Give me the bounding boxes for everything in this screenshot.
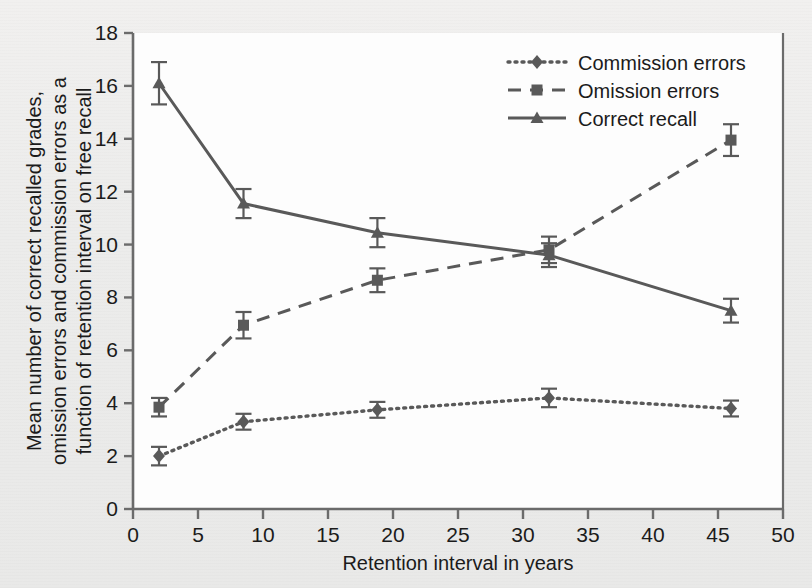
- legend-label: Commission errors: [578, 52, 746, 74]
- y-axis-ticks: [124, 33, 133, 509]
- y-axis-title-line-2: omission errors and commission errors as…: [48, 76, 70, 465]
- y-tick-label: 18: [95, 21, 118, 44]
- x-tick-label: 0: [127, 523, 139, 546]
- y-tick-label: 4: [106, 391, 118, 414]
- marker-square: [372, 275, 383, 286]
- y-tick-label: 16: [95, 74, 118, 97]
- x-tick-label: 30: [511, 523, 534, 546]
- y-tick-label: 2: [106, 444, 118, 467]
- marker-square: [532, 85, 543, 96]
- figure-container: 024681012141618 05101520253035404550 Com…: [0, 0, 812, 588]
- x-tick-label: 10: [251, 523, 274, 546]
- x-tick-label: 5: [192, 523, 204, 546]
- x-tick-label: 50: [771, 523, 794, 546]
- legend-label: Correct recall: [578, 108, 697, 130]
- y-tick-label: 10: [95, 233, 118, 256]
- x-tick-label: 40: [641, 523, 664, 546]
- y-tick-label: 12: [95, 180, 118, 203]
- legend-label: Omission errors: [578, 80, 719, 102]
- y-tick-label: 0: [106, 497, 118, 520]
- y-axis-title: Mean number of correct recalled grades, …: [23, 76, 95, 465]
- y-axis-title-line-3: function of retention interval on free r…: [73, 88, 95, 455]
- x-axis-title: Retention interval in years: [342, 552, 573, 574]
- y-tick-label: 6: [106, 338, 118, 361]
- y-axis-title-line-1: Mean number of correct recalled grades,: [23, 91, 45, 451]
- x-tick-label: 45: [706, 523, 729, 546]
- x-tick-label: 20: [381, 523, 404, 546]
- x-tick-label: 35: [576, 523, 599, 546]
- marker-square: [726, 135, 737, 146]
- y-axis-tick-labels: 024681012141618: [95, 21, 119, 520]
- line-chart: 024681012141618 05101520253035404550 Com…: [0, 0, 812, 588]
- y-tick-label: 8: [106, 285, 118, 308]
- x-axis-ticks: [133, 509, 783, 519]
- x-axis-tick-labels: 05101520253035404550: [127, 523, 795, 546]
- y-tick-label: 14: [95, 127, 119, 150]
- x-tick-label: 25: [446, 523, 469, 546]
- marker-square: [238, 320, 249, 331]
- marker-square: [154, 402, 165, 413]
- plot-area-background: [133, 33, 783, 509]
- x-tick-label: 15: [316, 523, 339, 546]
